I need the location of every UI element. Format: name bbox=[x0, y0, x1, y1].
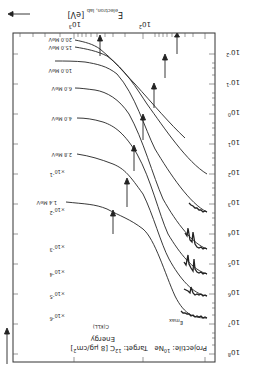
offset-label: ×10-1 bbox=[49, 169, 65, 178]
y-tick: 106 bbox=[228, 288, 240, 298]
ckll-label: C(KLL) bbox=[93, 324, 109, 330]
axis-arrows bbox=[5, 12, 31, 365]
offset-label: ×10-3 bbox=[49, 244, 65, 253]
energy-label: 15.0 MeV bbox=[48, 45, 72, 51]
curve-2.8mev bbox=[77, 154, 207, 296]
emax-label: Emax bbox=[169, 318, 183, 326]
spectrum-figure: 102 103 Eelectron, lab [eV] 10-2 10-1 10… bbox=[0, 0, 265, 374]
curve-6.0mev bbox=[75, 88, 207, 249]
energy-label: 2.8 MeV bbox=[52, 152, 72, 158]
energy-label: 20.0 MeV bbox=[48, 37, 72, 43]
y-tick: 100 bbox=[228, 108, 240, 118]
legend-projectile-target: Projectile: 10Ne Target: 12C [8 μg/cm2] bbox=[71, 344, 207, 354]
y-tick: 10-1 bbox=[226, 78, 240, 88]
curve-20.0mev bbox=[75, 40, 185, 138]
y-tick: 108 bbox=[228, 348, 240, 358]
y-tick: 101 bbox=[228, 138, 240, 148]
y-tick: 102 bbox=[228, 168, 240, 178]
x-tick-10-3: 103 bbox=[69, 20, 81, 30]
x-tick-10-2: 102 bbox=[139, 20, 151, 30]
offset-label: ×10-5 bbox=[49, 291, 65, 300]
y-tick: 10-2 bbox=[226, 48, 240, 58]
energy-label: 1.4 MeV bbox=[37, 200, 57, 206]
x-axis-ticks bbox=[20, 33, 205, 362]
curve-10.0mev bbox=[55, 61, 207, 212]
curve-15.0mev bbox=[75, 47, 207, 174]
y-tick: 103 bbox=[228, 198, 240, 208]
offset-label: ×10-6 bbox=[49, 313, 65, 322]
offset-label: ×10-2 bbox=[49, 207, 65, 216]
y-tick: 105 bbox=[228, 258, 240, 268]
y-tick: 107 bbox=[228, 318, 240, 328]
noisy-segments bbox=[181, 203, 207, 318]
energy-label: 6.0 MeV bbox=[52, 86, 72, 92]
offset-label: ×10-4 bbox=[49, 269, 65, 278]
spectrum-curves bbox=[55, 40, 207, 318]
energy-label: 4.0 MeV bbox=[52, 116, 72, 122]
curve-1.4mev bbox=[66, 202, 207, 318]
x-axis-arrow-icon bbox=[5, 328, 10, 334]
x-axis-title: Eelectron, lab [eV] bbox=[68, 8, 123, 19]
energy-header: Energy bbox=[90, 335, 115, 343]
energy-label: 10.0 MeV bbox=[48, 68, 72, 74]
y-tick: 104 bbox=[228, 228, 240, 238]
energy-axis-arrow-icon bbox=[8, 12, 13, 17]
